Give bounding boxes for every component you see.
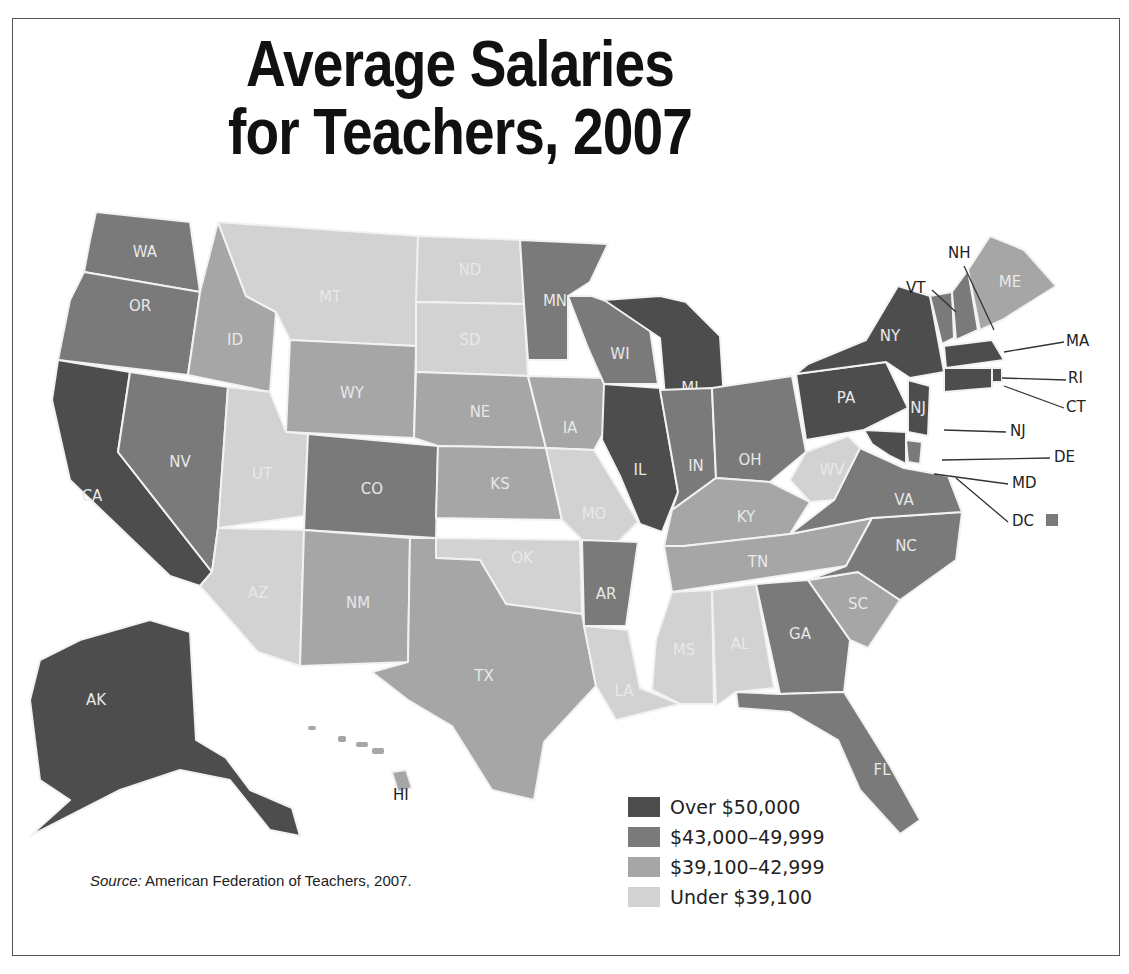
legend-item: Over $50,000 (628, 792, 825, 822)
callout-label-dc: DC (1012, 512, 1034, 530)
state-ct (944, 368, 992, 392)
state-shape (944, 340, 1004, 368)
legend-label: $43,000–49,999 (670, 826, 825, 848)
state-label: MO (582, 505, 607, 523)
callout-label-md: MD (1012, 474, 1037, 492)
us-choropleth-map: WAORCANVIDMTWYUTCOAZNMNDSDNEKSOKTXMNIAMO… (0, 0, 1129, 974)
state-label: MS (673, 641, 695, 659)
hawaii-island (372, 748, 384, 754)
legend-label: Under $39,100 (670, 886, 812, 908)
state-label: NJ (910, 399, 926, 417)
callout-label-hi: HI (393, 786, 409, 804)
state-co: CO (304, 434, 438, 538)
callout-label-vt: VT (906, 279, 926, 297)
state-label: MN (543, 292, 567, 310)
hawaii-island (308, 726, 316, 730)
legend-item: $39,100–42,999 (628, 852, 825, 882)
state-label: ND (459, 261, 482, 279)
state-label: NY (880, 327, 901, 345)
state-label: AL (731, 635, 750, 653)
state-label: OK (511, 549, 534, 567)
state-shape (582, 540, 638, 626)
state-label: NE (470, 403, 491, 421)
legend-label: Over $50,000 (670, 796, 800, 818)
leader-line (944, 430, 1006, 432)
state-shape (796, 286, 944, 378)
callout-label-ct: CT (1066, 398, 1086, 416)
state-label: NM (346, 594, 370, 612)
state-label: MT (319, 288, 342, 306)
state-ks: KS (436, 446, 562, 520)
leader-line (942, 458, 1050, 460)
state-or: OR (58, 272, 200, 375)
state-label: NV (169, 453, 191, 471)
dc-marker (1046, 514, 1058, 526)
state-sd: SD (416, 302, 528, 376)
state-label: AZ (248, 584, 269, 602)
callout-label-ma: MA (1066, 332, 1090, 350)
state-label: WV (819, 461, 845, 479)
state-shape (944, 368, 992, 392)
leader-line (1004, 386, 1064, 408)
state-label: IA (563, 419, 578, 437)
state-label: LA (615, 682, 635, 700)
state-label: WI (610, 345, 629, 363)
state-ar: AR (582, 540, 638, 626)
legend: Over $50,000$43,000–49,999$39,100–42,999… (628, 792, 825, 912)
legend-swatch (628, 827, 660, 847)
state-shape (906, 440, 922, 464)
state-wy: WY (286, 340, 416, 438)
state-label: TN (747, 553, 768, 571)
state-label: GA (789, 625, 812, 643)
state-label: OH (738, 451, 761, 469)
state-label: WY (340, 384, 365, 402)
state-az: AZ (200, 528, 304, 666)
hawaii-island (356, 742, 368, 747)
leader-line (1002, 378, 1066, 380)
state-nd: ND (416, 236, 524, 304)
state-ne: NE (414, 372, 546, 448)
state-label: KY (737, 508, 756, 526)
state-label: SC (848, 595, 868, 613)
state-ma (944, 340, 1004, 368)
source-prefix: Source: (90, 872, 142, 889)
state-label: OR (129, 297, 151, 315)
state-ny: NY (796, 286, 944, 378)
state-me: ME (968, 236, 1056, 330)
state-ms: MS (652, 590, 714, 704)
state-label: CA (82, 487, 103, 505)
callout-label-nh: NH (948, 244, 971, 262)
callout-label-nj: NJ (1010, 422, 1026, 440)
state-label: ID (227, 331, 243, 349)
state-label: CO (361, 480, 383, 498)
callout-label-ri: RI (1068, 369, 1083, 387)
state-label: NC (895, 537, 917, 555)
state-nm: NM (300, 530, 410, 666)
state-label: UT (252, 465, 273, 483)
source-note: Source: American Federation of Teachers,… (90, 872, 412, 889)
state-label: KS (490, 475, 509, 493)
state-nj: NJ (908, 380, 930, 436)
legend-swatch (628, 857, 660, 877)
state-label: PA (837, 389, 856, 407)
state-label: WA (133, 243, 158, 261)
leader-line (1004, 342, 1064, 352)
state-label: IN (688, 457, 704, 475)
state-de (906, 440, 922, 464)
state-pa: PA (796, 362, 908, 440)
state-label: AR (596, 585, 617, 603)
state-label: FL (874, 761, 892, 779)
legend-item: $43,000–49,999 (628, 822, 825, 852)
legend-swatch (628, 887, 660, 907)
legend-swatch (628, 797, 660, 817)
legend-label: $39,100–42,999 (670, 856, 825, 878)
state-label: AK (86, 691, 107, 709)
state-label: TX (473, 667, 493, 685)
state-shape (58, 272, 200, 375)
state-label: IL (634, 461, 647, 479)
hawaii-island (338, 736, 346, 742)
state-oh: OH (712, 376, 806, 482)
leader-line (956, 478, 1008, 522)
state-shape (992, 368, 1002, 382)
state-ri (992, 368, 1002, 382)
